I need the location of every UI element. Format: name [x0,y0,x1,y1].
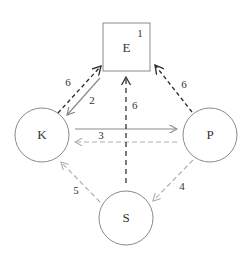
edge-e-to-k: 2 [67,78,100,115]
edge-label-e-k: 2 [89,94,95,106]
edge-p-to-e: 6 [155,65,192,112]
edge-s-to-k: 5 [61,162,100,202]
node-e-label: E [123,40,131,55]
node-k: K [15,108,69,162]
node-p-label: P [206,127,213,142]
edge-label-p-e: 6 [181,78,187,90]
diagram-svg: E 1 K P S 6 2 3 [0,0,247,266]
edge-label-p-s: 4 [179,180,185,192]
edge-label-s-k: 5 [73,184,79,196]
edge-label-s-e: 6 [132,99,138,111]
node-p: P [183,108,237,162]
node-k-label: K [37,127,47,142]
arrow-e-k [67,78,100,115]
edge-label-k-p: 3 [98,129,104,141]
edge-s-to-e: 6 [126,77,138,183]
edge-label-k-e: 6 [65,76,71,88]
node-s-label: S [122,210,129,225]
node-e: E 1 [103,23,150,71]
node-e-tag: 1 [137,27,143,39]
edge-p-to-s: 4 [153,160,193,201]
diagram-canvas: E 1 K P S 6 2 3 [0,0,247,266]
node-s: S [99,191,153,245]
arrow-s-k [61,162,100,202]
arrow-p-s [153,160,193,201]
